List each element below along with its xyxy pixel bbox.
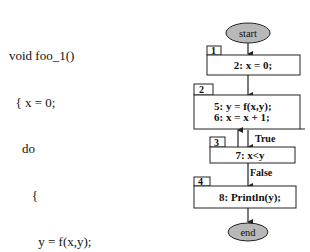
block-number: 3	[214, 137, 219, 148]
true-label: True	[255, 133, 276, 144]
block-2: 2 5: y = f(x,y); 6: x = x + 1;	[194, 84, 305, 129]
block-number: 1	[211, 45, 216, 56]
start-node: start	[226, 23, 270, 43]
block-statement: 6: x = x + 1;	[214, 111, 270, 123]
block-statement: 8: Println(y);	[219, 191, 281, 204]
false-label: False	[250, 167, 273, 178]
block-3: 3 7: x<y	[210, 137, 295, 163]
control-flow-graph: start 1 2: x = 0; 2 5: y = f(x,y); 6: x …	[0, 0, 310, 252]
block-statement: 2: x = 0;	[234, 59, 272, 71]
block-4: 4 8: Println(y);	[194, 176, 296, 208]
block-number: 2	[199, 84, 204, 95]
block-number: 4	[198, 176, 203, 187]
block-1: 1 2: x = 0;	[207, 45, 300, 75]
start-label: start	[239, 28, 257, 39]
end-label: end	[240, 227, 256, 238]
end-node: end	[228, 223, 268, 241]
block-statement: 7: x<y	[235, 149, 265, 161]
